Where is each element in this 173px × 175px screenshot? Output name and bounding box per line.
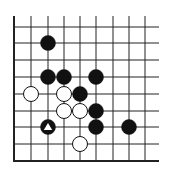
go-board xyxy=(0,0,173,175)
white-stone xyxy=(57,87,72,102)
black-stone xyxy=(122,120,137,135)
black-stone xyxy=(41,36,56,51)
black-stone xyxy=(57,70,72,85)
white-stone xyxy=(73,104,88,119)
white-stone xyxy=(24,87,39,102)
black-stone xyxy=(73,87,88,102)
white-stone xyxy=(57,104,72,119)
black-stone xyxy=(89,120,104,135)
white-stone xyxy=(73,137,88,152)
black-stone xyxy=(89,70,104,85)
black-stone xyxy=(41,70,56,85)
black-stone xyxy=(89,104,104,119)
